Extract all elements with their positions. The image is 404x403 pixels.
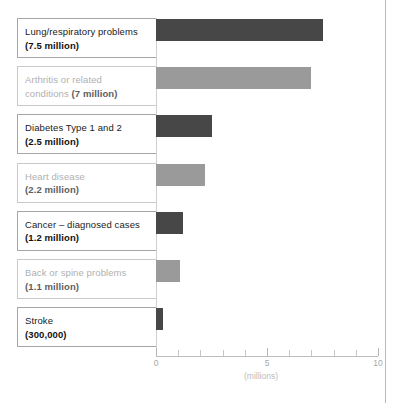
- bar-label-line1: Back or spine problems: [25, 266, 153, 280]
- chart-page: Lung/respiratory problems(7.5 million)Ar…: [0, 0, 404, 403]
- bar-label-line2: (1.2 million): [25, 231, 153, 245]
- x-axis-minor-tick: [356, 350, 357, 356]
- bar-label-line2: (1.1 million): [25, 280, 153, 294]
- horizontal-bar-chart: Lung/respiratory problems(7.5 million)Ar…: [0, 0, 404, 403]
- bar-label-line2: (7.5 million): [25, 39, 153, 53]
- x-axis-major-tick: [156, 348, 157, 356]
- x-axis-caption: (millions): [216, 371, 306, 381]
- bar-label-box: Cancer – diagnosed cases(1.2 million): [17, 211, 156, 251]
- bar-label-line1: Cancer – diagnosed cases: [25, 218, 153, 232]
- bar-label-line1: Arthritis or related: [25, 73, 153, 87]
- bar-value-label: (2.5 million): [25, 136, 79, 147]
- bar-row: Arthritis or relatedconditions (7 millio…: [0, 66, 404, 106]
- bar-row: Lung/respiratory problems(7.5 million): [0, 18, 404, 58]
- bar-value-label: (7 million): [72, 88, 118, 99]
- bar-label-text: Heart disease(2.2 million): [25, 170, 153, 197]
- bar-label-box: Heart disease(2.2 million): [17, 163, 156, 203]
- bar-value-label: (1.2 million): [25, 232, 79, 243]
- bar-value-label: (300,000): [25, 329, 67, 340]
- bar-label-line2: (2.2 million): [25, 183, 153, 197]
- bar-label-text: Lung/respiratory problems(7.5 million): [25, 25, 153, 52]
- bar-label-line2: (300,000): [25, 328, 153, 342]
- bar-label-line1: Heart disease: [25, 170, 153, 184]
- bar-label-line2: (2.5 million): [25, 135, 153, 149]
- x-axis-minor-tick: [223, 350, 224, 356]
- bar-row: Stroke(300,000): [0, 307, 404, 347]
- bar-label-line1: Lung/respiratory problems: [25, 25, 153, 39]
- bar-label-line1: Stroke: [25, 314, 153, 328]
- bar: [156, 308, 163, 330]
- x-axis-tick-label: 5: [255, 358, 279, 368]
- bar-label-box: Lung/respiratory problems(7.5 million): [17, 18, 156, 58]
- bar-label-line2: conditions (7 million): [25, 87, 153, 101]
- bar-label-text: Cancer – diagnosed cases(1.2 million): [25, 218, 153, 245]
- bar-label-box: Diabetes Type 1 and 2(2.5 million): [17, 114, 156, 154]
- bar-value-label: (1.1 million): [25, 281, 79, 292]
- x-axis-tick-label: 10: [366, 358, 390, 368]
- bar-label-box: Stroke(300,000): [17, 307, 156, 347]
- bar-label-box: Arthritis or relatedconditions (7 millio…: [17, 66, 156, 106]
- x-axis-major-tick: [378, 348, 379, 356]
- x-axis-line: [156, 356, 378, 357]
- bar-label-text: Arthritis or relatedconditions (7 millio…: [25, 73, 153, 100]
- bar: [156, 19, 323, 41]
- bar-label-text: Stroke(300,000): [25, 314, 153, 341]
- x-axis-minor-tick: [334, 350, 335, 356]
- x-axis-minor-tick: [311, 350, 312, 356]
- bar: [156, 67, 311, 89]
- bar: [156, 260, 180, 282]
- bar-row: Back or spine problems(1.1 million): [0, 259, 404, 299]
- bar-row: Cancer – diagnosed cases(1.2 million): [0, 211, 404, 251]
- bar-label-line1: Diabetes Type 1 and 2: [25, 121, 153, 135]
- bar-value-label: (7.5 million): [25, 40, 79, 51]
- bar: [156, 164, 205, 186]
- bar-row: Heart disease(2.2 million): [0, 163, 404, 203]
- bar-value-label: (2.2 million): [25, 184, 79, 195]
- x-axis-minor-tick: [245, 350, 246, 356]
- x-axis-minor-tick: [200, 350, 201, 356]
- x-axis-tick-label: 0: [144, 358, 168, 368]
- bar-row: Diabetes Type 1 and 2(2.5 million): [0, 114, 404, 154]
- bar-label-box: Back or spine problems(1.1 million): [17, 259, 156, 299]
- bar: [156, 115, 212, 137]
- x-axis-minor-tick: [289, 350, 290, 356]
- bar-label-text: Diabetes Type 1 and 2(2.5 million): [25, 121, 153, 148]
- bar-label-text: Back or spine problems(1.1 million): [25, 266, 153, 293]
- x-axis-minor-tick: [178, 350, 179, 356]
- bar: [156, 212, 183, 234]
- x-axis-major-tick: [267, 348, 268, 356]
